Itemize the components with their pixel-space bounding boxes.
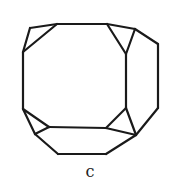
edge-C-D — [107, 24, 135, 29]
edge-F-G — [136, 108, 158, 135]
edge-C-M — [107, 24, 126, 54]
edge-D-E — [135, 29, 158, 44]
edge-O-G — [106, 128, 136, 135]
edge-P-J — [35, 127, 49, 134]
edge-G-H — [106, 135, 136, 154]
edge-D-M — [126, 29, 135, 54]
edge-N-G — [126, 108, 136, 135]
figure-label: c — [80, 162, 100, 181]
edge-N-O — [106, 108, 126, 128]
edge-I-J — [35, 134, 58, 154]
edge-O-P — [49, 127, 106, 128]
